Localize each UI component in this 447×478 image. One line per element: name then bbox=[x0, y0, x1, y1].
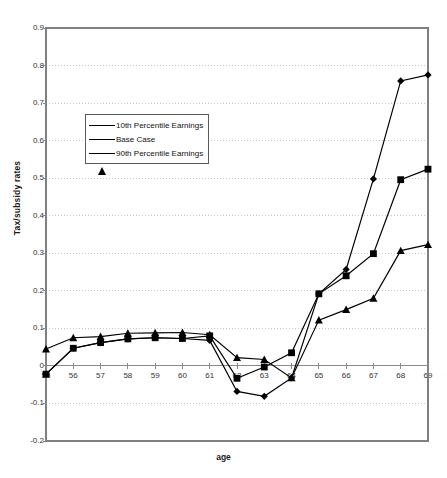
series-triangle bbox=[42, 241, 432, 382]
legend-item[interactable]: 90th Percentile Earnings bbox=[89, 146, 203, 160]
legend-marker-square-icon bbox=[89, 133, 115, 145]
series-square bbox=[43, 166, 432, 382]
legend-label: 10th Percentile Earnings bbox=[115, 121, 203, 130]
legend: 10th Percentile Earnings Base Case 90th … bbox=[85, 114, 209, 164]
legend-label: 90th Percentile Earnings bbox=[115, 149, 203, 158]
legend-marker-diamond-icon bbox=[89, 119, 115, 131]
legend-label: Base Case bbox=[115, 135, 155, 144]
chart-container: Tax/subsidy rates 0.90.80.70.60.50.40.30… bbox=[0, 0, 447, 478]
plot-area bbox=[0, 0, 447, 478]
legend-item[interactable]: Base Case bbox=[89, 132, 203, 146]
x-axis-title: age bbox=[0, 452, 447, 462]
legend-item[interactable]: 10th Percentile Earnings bbox=[89, 118, 203, 132]
legend-marker-triangle-icon bbox=[89, 147, 115, 159]
